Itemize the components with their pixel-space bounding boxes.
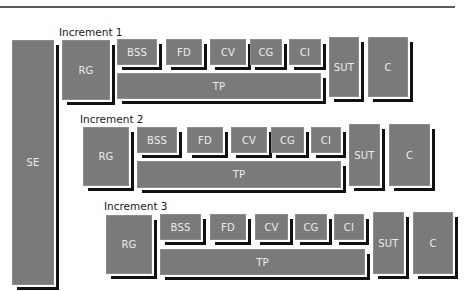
increment-2-sut: SUT	[349, 124, 380, 186]
increment-3-bss: BSS	[160, 214, 201, 240]
increment-3-title: Increment 3	[104, 200, 168, 212]
increment-1-sut: SUT	[329, 37, 359, 97]
increment-2-cv: CV	[231, 127, 267, 153]
increment-1-cg: CG	[250, 39, 282, 65]
increment-1-cv: CV	[210, 39, 246, 65]
increment-3-c: C	[413, 212, 453, 274]
increment-2-c: C	[389, 124, 430, 186]
increment-1-tp: TP	[117, 73, 321, 99]
increment-2-ci: CI	[311, 127, 341, 153]
increment-2-cg: CG	[271, 127, 304, 153]
increment-3-ci: CI	[334, 214, 364, 240]
increment-2-tp: TP	[137, 161, 341, 188]
increment-3-cg: CG	[295, 214, 327, 240]
increment-1-fd: FD	[166, 39, 202, 65]
increment-1-rg: RG	[62, 40, 110, 100]
increment-1-title: Increment 1	[59, 26, 123, 38]
increment-1-bss: BSS	[117, 39, 157, 65]
increment-3-cv: CV	[255, 214, 288, 240]
increment-2-bss: BSS	[137, 127, 177, 153]
increment-1-c: C	[368, 37, 408, 97]
increment-3-rg: RG	[106, 215, 152, 274]
increment-3-sut: SUT	[373, 212, 404, 274]
increment-2-fd: FD	[187, 127, 223, 153]
se-block: SE	[12, 40, 54, 285]
increment-2-title: Increment 2	[80, 113, 144, 125]
increment-1-ci: CI	[289, 39, 321, 65]
increment-2-rg: RG	[83, 127, 129, 186]
increment-3-tp: TP	[160, 249, 365, 275]
top-rule	[0, 6, 455, 8]
increment-3-fd: FD	[210, 214, 246, 240]
